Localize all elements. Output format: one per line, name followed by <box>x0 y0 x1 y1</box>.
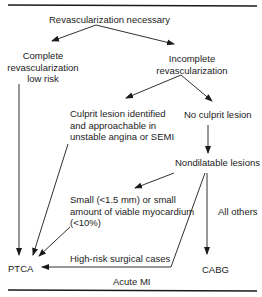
node-culprit-line2: and approachable in <box>70 120 174 132</box>
node-small-line3: (<10%) <box>70 217 194 229</box>
arrow-root-complete <box>52 25 96 41</box>
node-complete: Complete revascularization low risk <box>6 50 80 85</box>
arrow-small-ptca <box>39 227 70 256</box>
top-rule <box>8 5 257 6</box>
node-incomplete-line2: revascularization <box>152 65 232 77</box>
node-culprit: Culprit lesion identified and approachab… <box>70 108 174 143</box>
label-all-others: All others <box>218 206 258 218</box>
arrow-nondilatable-small <box>135 173 174 188</box>
arrow-root-incomplete <box>96 25 174 44</box>
node-complete-line1: Complete <box>6 50 80 62</box>
node-root: Revascularization necessary <box>49 14 170 26</box>
label-high-risk: High-risk surgical cases <box>70 253 170 265</box>
label-acute-mi: Acute MI <box>113 276 151 288</box>
node-incomplete-line1: Incomplete <box>152 53 232 65</box>
node-small-line2: amount of viable myocardium <box>70 206 194 218</box>
bottom-rule <box>8 290 257 291</box>
node-nondilatable: Nondilatable lesions <box>175 157 260 169</box>
node-complete-line2: revascularization <box>6 62 80 74</box>
node-complete-line3: low risk <box>6 73 80 85</box>
node-no-culprit: No culprit lesion <box>184 109 252 121</box>
node-small: Small (<1.5 mm) or small amount of viabl… <box>70 194 194 229</box>
node-culprit-line1: Culprit lesion identified <box>70 108 174 120</box>
arrow-incomplete-culprit <box>126 75 181 98</box>
node-small-line1: Small (<1.5 mm) or small <box>70 194 194 206</box>
node-cabg: CABG <box>202 264 229 276</box>
arrow-incomplete-noculprit <box>181 75 212 101</box>
node-ptca: PTCA <box>8 263 33 275</box>
node-incomplete: Incomplete revascularization <box>152 53 232 76</box>
node-culprit-line3: unstable angina or SEMI <box>70 131 174 143</box>
arrow-culprit-ptca <box>33 144 68 255</box>
